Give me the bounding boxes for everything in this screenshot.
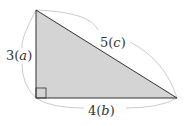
- right-triangle: [36, 10, 177, 98]
- label-side-a: 3(a): [6, 48, 32, 63]
- label-side-c: 5(c): [100, 35, 126, 50]
- label-side-b: 4(b): [88, 103, 115, 118]
- triangle-diagram: 3(a) 5(c) 4(b): [0, 0, 190, 125]
